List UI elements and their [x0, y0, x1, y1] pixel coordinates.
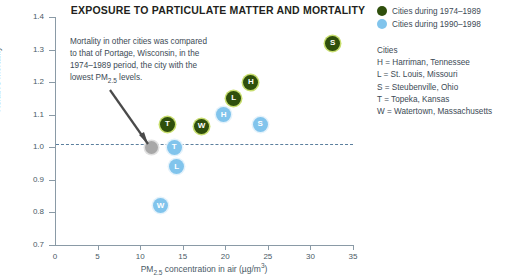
y-axis-tick — [49, 245, 55, 246]
data-point-t: T — [167, 140, 182, 155]
annotation-line-1: Mortality in other cities was compared — [70, 37, 207, 46]
legend-key-row: L = St. Louis, Missouri — [377, 69, 516, 81]
x-axis-tick-label: 5 — [85, 252, 111, 261]
y-axis-tick-label: 1.3 — [20, 45, 44, 54]
x-axis-tick — [140, 245, 141, 250]
y-axis-tick-label: 0.7 — [20, 240, 44, 249]
legend-key-row: H = Harriman, Tennessee — [377, 57, 516, 69]
legend-city-key: Cities H = Harriman, TennesseeL = St. Lo… — [377, 46, 516, 118]
legend-key-row: W = Watertown, Massachusetts — [377, 106, 516, 118]
y-axis-tick-label: 1.4 — [20, 12, 44, 21]
legend-item-label: Cities during 1974–1989 — [392, 7, 481, 16]
annotation-line-2: to that of Portage, Wisconsin, in the — [70, 49, 199, 58]
data-point-h: H — [243, 75, 258, 90]
annotation-line-4-suffix: levels. — [117, 73, 142, 82]
x-axis-label-prefix: PM — [141, 264, 154, 274]
annotation-arrow-icon — [108, 88, 156, 150]
y-axis-label: Relative mortality — [0, 47, 2, 112]
x-axis-tick — [310, 245, 311, 250]
data-point-w: W — [153, 198, 168, 213]
y-axis-tick-label: 0.9 — [20, 175, 44, 184]
x-axis-tick-label: 30 — [297, 252, 323, 261]
x-axis-tick — [353, 245, 354, 250]
legend-key-title: Cities — [377, 46, 516, 55]
y-axis-tick-label: 1.2 — [20, 77, 44, 86]
legend: Cities during 1974–1989Cities during 199… — [377, 6, 513, 32]
annotation-subscript: 2.5 — [108, 76, 117, 83]
y-axis-tick — [49, 115, 55, 116]
x-axis-tick — [98, 245, 99, 250]
data-point-h: H — [216, 107, 231, 122]
x-axis-tick-label: 35 — [340, 252, 366, 261]
x-axis-tick — [225, 245, 226, 250]
data-point-s: S — [253, 117, 268, 132]
x-axis-tick — [183, 245, 184, 250]
annotation-line-3: 1974–1989 period, the city with the — [70, 61, 197, 70]
x-axis-line — [55, 245, 353, 246]
x-axis-label: PM2.5 concentration in air (µg/m3) — [55, 262, 353, 276]
y-axis-tick-label: 1.0 — [20, 142, 44, 151]
x-axis-tick-label: 25 — [255, 252, 281, 261]
legend-item: Cities during 1990–1998 — [377, 19, 513, 29]
y-axis-tick-label: 1.1 — [20, 110, 44, 119]
legend-key-row: S = Steubenville, Ohio — [377, 82, 516, 94]
data-point-l: L — [226, 91, 241, 106]
x-axis-tick-label: 20 — [212, 252, 238, 261]
reference-line — [56, 144, 353, 145]
y-axis-tick — [49, 180, 55, 181]
y-axis-tick — [49, 212, 55, 213]
legend-item: Cities during 1974–1989 — [377, 6, 513, 16]
y-axis-tick — [49, 50, 55, 51]
x-axis-tick — [268, 245, 269, 250]
data-point-l: L — [169, 159, 184, 174]
y-axis-tick — [49, 82, 55, 83]
y-axis-line — [55, 17, 56, 245]
legend-dot-icon — [377, 6, 387, 16]
x-axis-tick-label: 15 — [170, 252, 196, 261]
legend-item-label: Cities during 1990–1998 — [392, 20, 481, 29]
x-axis-tick-label: 10 — [127, 252, 153, 261]
legend-key-row: T = Topeka, Kansas — [377, 94, 516, 106]
legend-key-rows: H = Harriman, TennesseeL = St. Louis, Mi… — [377, 57, 516, 118]
data-point-s: S — [325, 36, 340, 51]
y-axis-tick — [49, 147, 55, 148]
y-axis-tick-label: 0.8 — [20, 207, 44, 216]
x-axis-label-mid: concentration in air (µg/m — [162, 264, 260, 274]
annotation-text: Mortality in other cities was compared t… — [70, 36, 230, 85]
annotation-line-4-prefix: lowest PM — [70, 73, 108, 82]
x-axis-tick-label: 0 — [42, 252, 68, 261]
y-axis-tick — [49, 17, 55, 18]
x-axis-label-suffix: ) — [265, 264, 268, 274]
page-title: EXPOSURE TO PARTICULATE MATTER AND MORTA… — [68, 4, 368, 16]
data-point-w: W — [194, 119, 209, 134]
data-point-t: T — [160, 117, 175, 132]
legend-dot-icon — [377, 19, 387, 29]
